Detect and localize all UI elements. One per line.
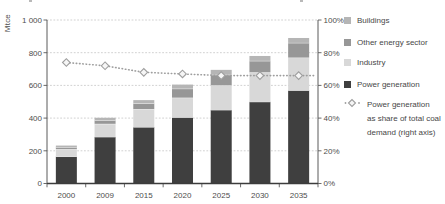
legend-label: Buildings (357, 16, 389, 26)
legend-label: Industry (357, 58, 385, 68)
legend-item-buildings: Buildings (344, 16, 389, 26)
chart-legend: BuildingsOther energy sectorIndustryPowe… (344, 0, 444, 204)
industry-swatch-icon (344, 59, 351, 66)
bar-segment-other-energy-sector (288, 43, 309, 58)
coal-demand-chart-figure: Mtce 02004006008001 0000%20%40%60%80%100… (0, 0, 445, 204)
left-axis-tick-label: 800 (29, 49, 43, 58)
share-line-diamond-marker (140, 69, 148, 77)
legend-label: Power generation (357, 80, 420, 90)
left-axis-tick-label: 600 (29, 81, 43, 90)
bar-segment-buildings (288, 38, 309, 43)
other-energy-sector-swatch-icon (344, 39, 351, 46)
x-axis-category-label: 2000 (57, 191, 75, 200)
right-axis-tick-label: 80% (324, 49, 340, 58)
bar-segment-power-generation (288, 90, 309, 183)
share-line-diamond-marker (63, 59, 71, 67)
bar-segment-buildings (249, 56, 270, 61)
legend-item-power-generation: Power generation (344, 80, 420, 90)
bar-segment-buildings (133, 100, 154, 103)
x-axis-category-label: 2009 (96, 191, 114, 200)
bar-segment-industry (172, 98, 193, 118)
left-axis-tick-label: 200 (29, 147, 43, 156)
bar-segment-other-energy-sector (95, 120, 116, 124)
left-axis-tick-label: 400 (29, 114, 43, 123)
legend-item-share-line: Power generationas share of total coalde… (344, 98, 441, 140)
bar-segment-other-energy-sector (133, 103, 154, 109)
share-line-diamond-marker (101, 62, 109, 70)
left-axis-tick-label: 1 000 (22, 16, 43, 25)
bar-segment-power-generation (249, 102, 270, 184)
bar-segment-buildings (56, 146, 77, 148)
right-axis-tick-label: 100% (324, 16, 344, 25)
bar-segment-power-generation (95, 137, 116, 184)
x-axis-category-label: 2025 (212, 191, 230, 200)
bar-segment-industry (211, 85, 232, 110)
x-axis-category-label: 2035 (290, 191, 308, 200)
x-axis-category-label: 2030 (251, 191, 269, 200)
legend-item-industry: Industry (344, 58, 385, 68)
bar-segment-buildings (172, 85, 193, 89)
bar-segment-power-generation (172, 117, 193, 183)
right-axis-tick-label: 40% (324, 114, 340, 123)
bar-segment-other-energy-sector (249, 61, 270, 72)
share-line-diamond-icon (344, 98, 361, 108)
bar-segment-power-generation (133, 127, 154, 183)
bar-segment-power-generation (211, 110, 232, 184)
bar-segment-buildings (95, 118, 116, 120)
legend-label: Power generationas share of total coalde… (367, 98, 441, 140)
x-axis-category-label: 2020 (174, 191, 192, 200)
bar-segment-power-generation (56, 157, 77, 184)
right-axis-tick-label: 60% (324, 81, 340, 90)
legend-item-other-energy-sector: Other energy sector (344, 38, 428, 48)
bar-segment-industry (133, 109, 154, 127)
bar-segment-industry (95, 124, 116, 137)
buildings-swatch-icon (344, 17, 351, 24)
right-axis-tick-label: 20% (324, 147, 340, 156)
bar-segment-other-energy-sector (172, 89, 193, 98)
x-axis-category-label: 2015 (135, 191, 153, 200)
right-axis-tick-label: 0% (324, 179, 336, 188)
bar-segment-industry (56, 149, 77, 156)
left-axis-tick-label: 0 (38, 179, 43, 188)
legend-label: Other energy sector (357, 38, 428, 48)
share-line-diamond-marker (179, 70, 187, 78)
power-generation-swatch-icon (344, 81, 351, 88)
